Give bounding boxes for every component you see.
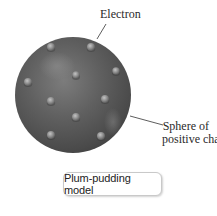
electron-dot xyxy=(87,43,95,52)
model-title-box: Plum-pudding model xyxy=(63,172,162,196)
electron-dot xyxy=(47,97,55,106)
sphere-label-line2: positive charge xyxy=(162,133,209,146)
sphere-highlight-secondary xyxy=(104,108,122,136)
electron-dot xyxy=(47,131,55,140)
electron-label: Electron xyxy=(100,8,141,21)
electron-dot xyxy=(24,78,32,87)
electron-leader-line xyxy=(97,24,106,39)
electron-dot xyxy=(47,43,55,52)
sphere-highlight xyxy=(39,52,75,80)
sphere-label: Sphere of positive charge xyxy=(162,120,209,146)
electron-dot xyxy=(101,95,109,104)
model-title: Plum-pudding model xyxy=(64,172,161,196)
plum-pudding-diagram: Electron Sphere of positive charge Plum-… xyxy=(0,0,217,216)
electron-dot xyxy=(72,113,80,122)
electron-dot xyxy=(97,132,105,141)
electron-dot xyxy=(112,67,120,76)
sphere-leader-line xyxy=(130,116,163,125)
electron-dot xyxy=(72,71,80,80)
